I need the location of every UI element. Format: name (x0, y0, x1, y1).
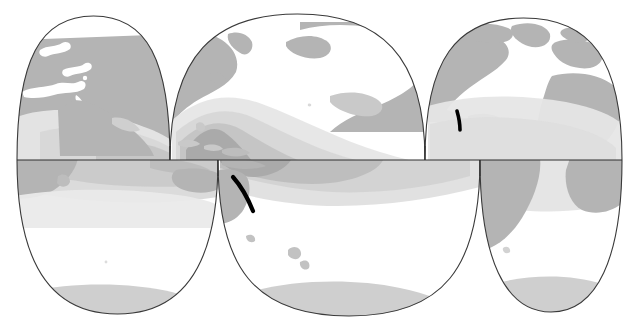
lobe-north-central (165, 5, 430, 178)
land-hawaii (308, 104, 312, 107)
map-canvas (0, 0, 639, 330)
lobe-south-east (475, 155, 630, 320)
lobe-south-west (10, 155, 226, 320)
island-dot-s1 (105, 261, 108, 264)
lobe-north-east (420, 5, 630, 174)
lake-aral (83, 76, 87, 80)
lobe-north-west (10, 5, 185, 170)
world-map-figure (0, 0, 639, 330)
land-greenland-edge (395, 23, 430, 44)
lobe-south-central (213, 155, 485, 322)
